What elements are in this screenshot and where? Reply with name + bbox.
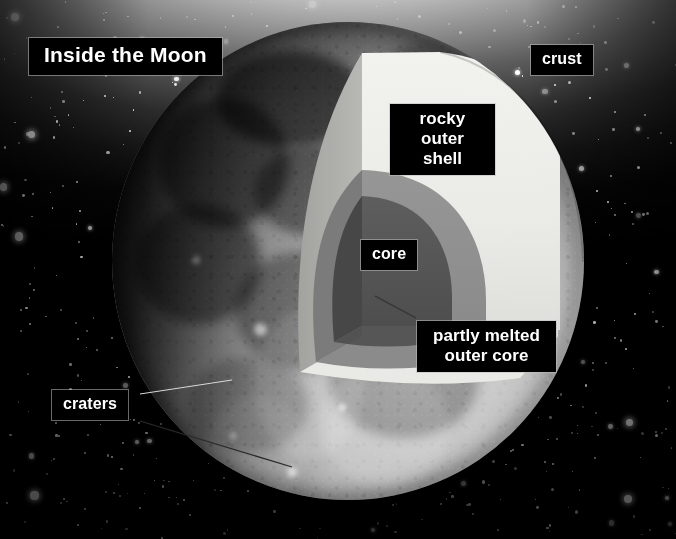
moon-icon bbox=[112, 22, 584, 500]
moon-diagram-scene: Inside the Moon crust rocky outer shell … bbox=[0, 0, 676, 539]
label-partly-melted-outer-core: partly melted outer core bbox=[417, 321, 556, 372]
label-core: core bbox=[361, 240, 417, 270]
page-title: Inside the Moon bbox=[29, 38, 222, 75]
moon-surface bbox=[112, 22, 584, 500]
crust-rim bbox=[112, 22, 584, 500]
label-crust: crust bbox=[531, 45, 593, 75]
label-craters: craters bbox=[52, 390, 128, 420]
label-rocky-outer-shell: rocky outer shell bbox=[390, 104, 495, 175]
